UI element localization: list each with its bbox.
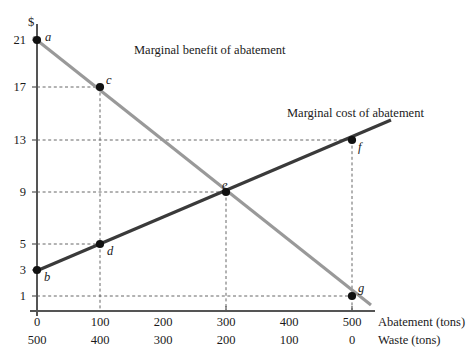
ytick-label-5: 5 [4,238,26,251]
point-label-b: b [44,271,50,284]
guide-lines [37,87,352,311]
curve-label-marginal-benefit: Marginal benefit of abatement [134,44,285,57]
point-d[interactable] [96,240,104,248]
xtick-abatement-300: 300 [206,316,246,329]
xtick-abatement-200: 200 [143,316,183,329]
point-label-g: g [358,282,364,295]
point-label-e: e [222,179,228,192]
point-label-f: f [358,141,361,154]
xtick-waste-100: 100 [269,334,309,347]
point-c[interactable] [96,83,104,91]
ytick-label-3: 3 [4,264,26,277]
xtick-waste-400: 400 [80,334,120,347]
curve-label-marginal-cost: Marginal cost of abatement [287,107,424,120]
point-label-c: c [106,74,112,87]
xtick-waste-200: 200 [206,334,246,347]
x-axis-label-abatement: Abatement (tons) [378,316,465,329]
x-axis-label-waste: Waste (tons) [378,334,441,347]
point-g[interactable] [348,292,356,300]
point-label-d: d [107,245,113,258]
xtick-waste-500: 500 [17,334,57,347]
ytick-label-17: 17 [4,81,26,94]
xtick-abatement-0: 0 [17,316,57,329]
ytick-label-1: 1 [4,290,26,303]
xtick-waste-0: 0 [332,334,372,347]
xtick-abatement-400: 400 [269,316,309,329]
point-b[interactable] [33,266,41,274]
marginal-cost-curve [34,120,391,272]
xtick-abatement-500: 500 [332,316,372,329]
abatement-chart: $ 21 17 13 9 5 3 1 0 100 200 300 400 500… [0,0,475,362]
xtick-abatement-100: 100 [80,316,120,329]
ytick-label-9: 9 [4,186,26,199]
marginal-benefit-curve [33,37,371,305]
y-axis-unit-label: $ [28,16,34,29]
ytick-label-13: 13 [4,134,26,147]
ytick-label-21: 21 [4,34,26,47]
xtick-waste-300: 300 [143,334,183,347]
point-a[interactable] [33,36,41,44]
point-label-a: a [45,31,51,44]
point-f[interactable] [348,136,356,144]
